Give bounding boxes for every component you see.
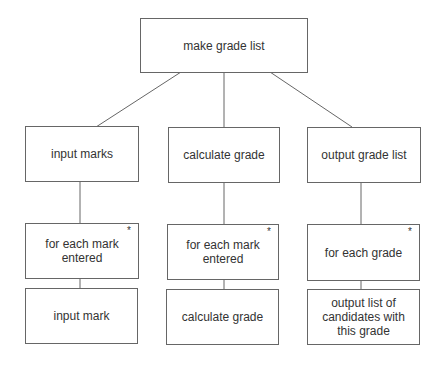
iteration-node-for-each-mark-entered-1: for each mark entered * [25, 223, 139, 279]
node-label: for each grade [325, 246, 402, 260]
connector-root-to-output-grade-list [270, 72, 352, 127]
node-calculate-grade: calculate grade [168, 127, 280, 183]
connector-root-to-input-marks [96, 72, 181, 127]
iteration-marker-asterisk: * [408, 227, 412, 237]
leaf-node-calculate-grade: calculate grade [166, 289, 279, 345]
node-label: calculate grade [183, 148, 264, 162]
node-label: output list of candidates with this grad… [314, 296, 413, 338]
node-label: output grade list [321, 148, 406, 162]
node-output-grade-list: output grade list [307, 127, 421, 183]
node-label: input marks [51, 147, 113, 161]
root-node-make-grade-list: make grade list [140, 18, 308, 73]
leaf-node-input-mark: input mark [25, 288, 138, 344]
iteration-node-for-each-mark-entered-2: for each mark entered * [167, 224, 279, 280]
node-label: for each mark entered [32, 237, 132, 265]
node-label: input mark [53, 309, 109, 323]
iteration-marker-asterisk: * [267, 227, 271, 237]
iteration-marker-asterisk: * [127, 226, 131, 236]
node-label: calculate grade [182, 310, 263, 324]
node-label: for each mark entered [174, 238, 272, 266]
iteration-node-for-each-grade: for each grade * [307, 224, 420, 281]
leaf-node-output-list-of-candidates: output list of candidates with this grad… [307, 289, 420, 345]
root-node-label: make grade list [183, 39, 264, 53]
node-input-marks: input marks [25, 126, 139, 182]
